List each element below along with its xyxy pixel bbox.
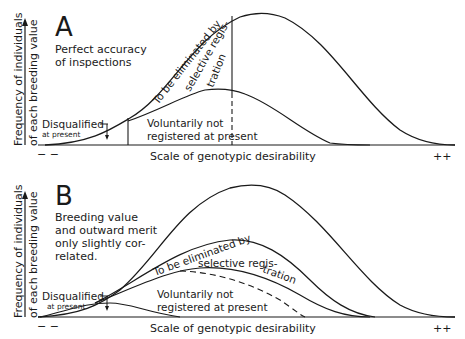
disqualified-label-a: Disqualified [42, 118, 104, 130]
diagram: Frequency of individuals of each breedin… [0, 0, 465, 339]
disqualified-sub-a: at present [42, 130, 80, 139]
description-b1: Breeding value [55, 211, 138, 224]
voluntary-label-a2: registered at present [147, 130, 258, 142]
panel-letter-b: B [55, 181, 73, 211]
description-b2: and outward merit [55, 224, 158, 237]
y-axis-label-b1: Frequency of individuals [12, 184, 25, 318]
voluntary-label-b2: registered at present [157, 301, 268, 313]
arrow-down-icon [105, 135, 109, 140]
panel-a: Frequency of individuals of each breedin… [12, 12, 455, 163]
panel-letter-a: A [55, 12, 73, 42]
description-b4: related. [55, 250, 97, 263]
panel-b: Frequency of individuals of each breedin… [12, 181, 455, 335]
y-axis-label-a2: of each breeding value [27, 19, 40, 146]
y-axis-label-a1: Frequency of individuals [12, 12, 25, 146]
x-right-label-a: ++ [433, 150, 451, 163]
description-b3: only slightly cor- [55, 237, 146, 250]
disqualified-sub-b: at present [47, 302, 85, 311]
x-axis-label-a: Scale of genotypic desirability [150, 150, 316, 163]
x-left-label-a: − − [37, 148, 59, 161]
y-axis-label-b2: of each breeding value [27, 191, 40, 318]
description-a2: of inspections [55, 56, 132, 69]
x-left-label-b: − − [37, 320, 59, 333]
x-right-label-b: ++ [433, 322, 451, 335]
voluntary-label-a1: Voluntarily not [147, 117, 223, 129]
eliminated-label-b3: tration [261, 263, 298, 286]
description-a1: Perfect accuracy [55, 43, 147, 56]
voluntary-label-b1: Voluntarily not [157, 288, 233, 300]
arrow-down-icon [105, 306, 109, 311]
x-axis-label-b: Scale of genotypic desirability [150, 322, 316, 335]
disqualified-label-b: Disqualified [42, 290, 104, 302]
